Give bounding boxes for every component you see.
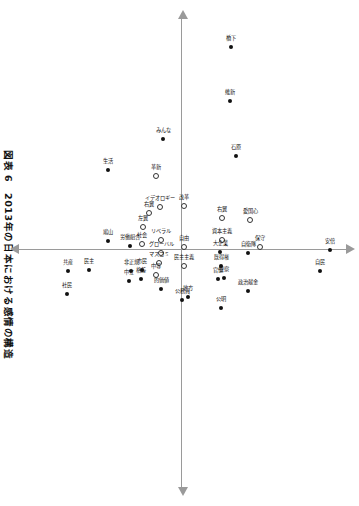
open-circle-marker <box>181 203 187 209</box>
data-point-label: 社民 <box>62 283 72 288</box>
filled-circle-marker <box>234 154 238 158</box>
open-circle-marker <box>247 217 253 223</box>
filled-circle-marker <box>87 268 91 272</box>
data-point-label: 非正規 <box>124 260 139 265</box>
arrow-right-icon <box>178 487 188 496</box>
open-circle-marker <box>153 173 159 179</box>
filled-circle-marker <box>219 306 223 310</box>
filled-circle-marker <box>318 269 322 273</box>
data-point-label: 労働組合 <box>120 235 140 240</box>
filled-circle-marker <box>229 45 233 49</box>
data-point-label: 格差 <box>136 269 146 274</box>
vertical-axis <box>12 249 347 250</box>
plot-rotation-wrapper: 安倍自民橋下維新石原愛国心自衛隊保守政治献金右翼資本主義大企業既得権警察官僚公明… <box>0 0 359 506</box>
data-point-label: 安倍 <box>325 239 335 244</box>
data-point-label: 鳩山 <box>103 231 113 236</box>
open-circle-marker <box>140 224 146 230</box>
filled-circle-marker <box>106 239 110 243</box>
data-point-label: みんな <box>155 128 170 133</box>
filled-circle-marker <box>180 298 184 302</box>
data-point-label: グローバル <box>149 243 174 248</box>
arrow-down-icon <box>10 244 19 254</box>
filled-circle-marker <box>65 292 69 296</box>
data-point-label: 資本主義 <box>212 229 232 234</box>
open-circle-marker <box>181 263 187 269</box>
filled-circle-marker <box>246 289 250 293</box>
filled-circle-marker <box>228 99 232 103</box>
data-point-label: 中立 <box>124 270 134 275</box>
open-circle-marker <box>158 204 164 210</box>
data-point-label: 自民 <box>315 260 325 265</box>
data-point-label: 大企業 <box>213 241 228 246</box>
filled-circle-marker <box>216 277 220 281</box>
data-point-label: 自由 <box>179 237 189 242</box>
data-point-label: 的価値 <box>154 278 169 283</box>
scatter-plot: 安倍自民橋下維新石原愛国心自衛隊保守政治献金右翼資本主義大企業既得権警察官僚公明… <box>0 0 359 506</box>
filled-circle-marker <box>159 287 163 291</box>
data-point-label: 既得権 <box>213 256 228 261</box>
filled-circle-marker <box>106 168 110 172</box>
data-point-label: 中等 <box>151 264 161 269</box>
figure-canvas: 図表 6 2013年の日本における感情の構造 安倍自民橋下維新石原愛国心自衛隊保… <box>0 0 359 506</box>
data-point-label: 民主主義 <box>174 256 194 261</box>
data-point-label: リベラル <box>151 229 171 234</box>
data-point-label: 官僚 <box>213 269 223 274</box>
arrow-up-icon <box>346 244 355 254</box>
filled-circle-marker <box>66 269 70 273</box>
data-point-label: 公明 <box>216 297 226 302</box>
horizontal-axis <box>182 18 183 488</box>
filled-circle-marker <box>127 279 131 283</box>
open-circle-marker <box>257 244 263 250</box>
filled-circle-marker <box>161 137 165 141</box>
data-point-label: 政治献金 <box>238 281 258 286</box>
data-point-label: 生活 <box>103 159 113 164</box>
data-point-label: 右翼 <box>144 202 154 207</box>
filled-circle-marker <box>139 277 143 281</box>
open-circle-marker <box>139 241 145 247</box>
filled-circle-marker <box>246 251 250 255</box>
data-point-label: 自衛隊 <box>240 243 255 248</box>
data-point-label: 石原 <box>231 145 241 150</box>
data-point-label: 維新 <box>225 90 235 95</box>
data-point-label: 共産 <box>63 260 73 265</box>
data-point-label: 革新 <box>151 165 161 170</box>
arrow-left-icon <box>178 10 188 19</box>
data-point-label: 橋下 <box>226 37 236 42</box>
data-point-label: 保守 <box>255 237 265 242</box>
data-point-label: 愛国心 <box>243 209 258 214</box>
filled-circle-marker <box>328 248 332 252</box>
data-point-label: 民主 <box>84 259 94 264</box>
open-circle-marker <box>181 244 187 250</box>
filled-circle-marker <box>186 295 190 299</box>
data-point-label: マスコミ <box>149 252 169 257</box>
data-point-label: 左翼 <box>138 216 148 221</box>
open-circle-marker <box>219 215 225 221</box>
data-point-label: 右翼 <box>217 207 227 212</box>
data-point-label: 改革 <box>179 195 189 200</box>
filled-circle-marker <box>222 276 226 280</box>
filled-circle-marker <box>128 244 132 248</box>
data-point-label: 公務員 <box>174 289 189 294</box>
